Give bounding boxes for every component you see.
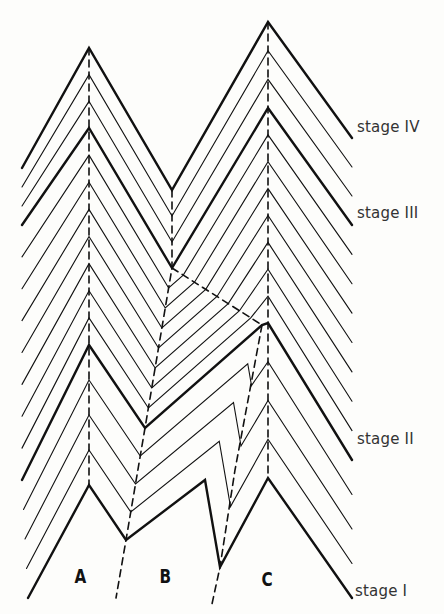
stage-II-surface [22,323,352,480]
thin-layer-line [22,51,352,216]
axis-B-C-link [172,268,262,325]
layer-diagram [0,0,444,614]
thin-layer-line [22,216,352,353]
stage-label-iv: stage IV [357,118,420,136]
diagram-canvas: stage IV stage III stage II stage I A B … [0,0,444,614]
stage-label-i: stage I [355,582,407,600]
thin-layer-line [22,296,352,448]
stage-label-ii: stage II [357,430,414,448]
thin-layer-line [22,242,352,384]
thin-layer-line [24,362,353,510]
stage-III-surface [22,108,352,268]
thin-layer-line [22,269,352,416]
thin-layer-line [27,439,353,568]
column-label-c: C [261,568,272,590]
column-label-a: A [74,565,86,587]
thin-layer-line [25,401,352,540]
column-label-b: B [159,565,171,587]
stage-label-iii: stage III [357,204,418,222]
stage-IV-surface [22,22,352,190]
